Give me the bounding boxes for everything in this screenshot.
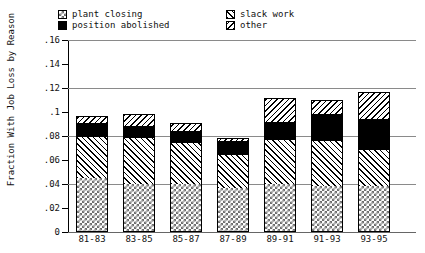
y-tick-label-wrap: .08	[30, 132, 60, 141]
bar-segment-83-85-position-abolished	[123, 126, 155, 138]
y-tick-label-wrap: .04	[30, 180, 60, 189]
legend-label-position-abolished: position abolished	[72, 20, 170, 30]
chart-legend: plant closing position abolished slack w…	[58, 9, 388, 31]
y-tick-label: .06	[34, 156, 60, 165]
bar-segment-91-93-plant-closing	[311, 186, 343, 232]
x-axis-line	[68, 232, 416, 233]
bar-89-91	[264, 40, 296, 232]
bar-83-85	[123, 40, 155, 232]
bar-segment-81-83-plant-closing	[76, 178, 108, 232]
y-tick-label-wrap: .14	[30, 60, 60, 69]
bar-segment-83-85-slack-work	[123, 138, 155, 184]
legend-label-plant-closing: plant closing	[72, 9, 142, 19]
y-tick-label: 0	[34, 228, 60, 237]
bar-segment-93-95-other	[358, 92, 390, 120]
x-category-label-93-95: 93-95	[344, 234, 404, 244]
bar-segment-89-91-position-abolished	[264, 122, 296, 140]
bar-segment-93-95-slack-work	[358, 150, 390, 186]
chart-canvas: plant closing position abolished slack w…	[0, 0, 425, 253]
legend-swatch-slack-work-icon	[226, 10, 235, 19]
bar-segment-93-95-position-abolished	[358, 119, 390, 150]
legend-label-other: other	[240, 20, 267, 30]
bar-segment-91-93-position-abolished	[311, 114, 343, 140]
y-tick-label: .16	[34, 36, 60, 45]
bar-segment-89-91-plant-closing	[264, 184, 296, 232]
legend-swatch-other-icon	[226, 21, 235, 30]
y-tick-label: .12	[34, 84, 60, 93]
bar-segment-87-89-other	[217, 138, 249, 140]
plot-area	[68, 40, 416, 232]
bar-segment-83-85-other	[123, 114, 155, 126]
bar-93-95	[358, 40, 390, 232]
bar-segment-83-85-plant-closing	[123, 184, 155, 232]
legend-item-plant-closing: plant closing	[58, 9, 142, 19]
bar-segment-91-93-slack-work	[311, 141, 343, 187]
bar-87-89	[217, 40, 249, 232]
y-tick-label: .1	[34, 108, 60, 117]
legend-swatch-position-abolished-icon	[58, 21, 67, 30]
bar-segment-89-91-other	[264, 98, 296, 122]
legend-swatch-plant-closing-icon	[58, 10, 67, 19]
y-tick-label-wrap: .06	[30, 156, 60, 165]
bar-segment-81-83-position-abolished	[76, 123, 108, 137]
y-tick-label: .04	[34, 180, 60, 189]
legend-item-slack-work: slack work	[226, 9, 294, 19]
y-tick-label: .14	[34, 60, 60, 69]
bar-segment-85-87-plant-closing	[170, 184, 202, 232]
bar-segment-81-83-slack-work	[76, 137, 108, 178]
bar-segment-85-87-slack-work	[170, 143, 202, 184]
legend-item-position-abolished: position abolished	[58, 20, 170, 30]
bar-segment-87-89-plant-closing	[217, 188, 249, 232]
bar-segment-85-87-other	[170, 123, 202, 131]
y-axis-title: Fraction With Job Loss by Reason	[7, 10, 16, 190]
bar-segment-89-91-slack-work	[264, 140, 296, 184]
y-tick-label: .02	[34, 204, 60, 213]
bar-segment-85-87-position-abolished	[170, 131, 202, 143]
y-tick-label-wrap: .1	[30, 108, 60, 117]
bar-segment-93-95-plant-closing	[358, 186, 390, 232]
y-tick-label-wrap: .16	[30, 36, 60, 45]
bar-segment-81-83-other	[76, 116, 108, 123]
y-tick-mark	[62, 232, 68, 233]
legend-label-slack-work: slack work	[240, 9, 294, 19]
bar-segment-87-89-slack-work	[217, 155, 249, 187]
bar-81-83	[76, 40, 108, 232]
bar-segment-91-93-other	[311, 100, 343, 114]
y-tick-label-wrap: .02	[30, 204, 60, 213]
y-tick-label-wrap: 0	[30, 228, 60, 237]
y-tick-label: .08	[34, 132, 60, 141]
bar-85-87	[170, 40, 202, 232]
bar-91-93	[311, 40, 343, 232]
y-tick-label-wrap: .12	[30, 84, 60, 93]
bar-segment-87-89-position-abolished	[217, 141, 249, 155]
legend-item-other: other	[226, 20, 267, 30]
